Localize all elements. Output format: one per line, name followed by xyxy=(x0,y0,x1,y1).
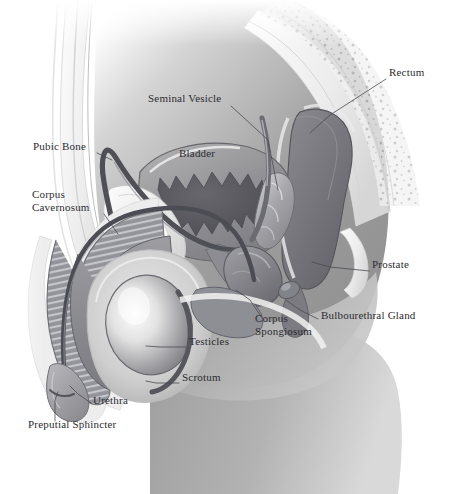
label-testicles[interactable]: Testicles xyxy=(189,335,229,348)
label-bulbourethral-gland[interactable]: Bulbourethral Gland xyxy=(321,309,416,322)
label-urethra[interactable]: Urethra xyxy=(93,394,128,407)
label-pubic-bone[interactable]: Pubic Bone xyxy=(33,140,86,153)
label-scrotum[interactable]: Scrotum xyxy=(182,371,221,384)
label-seminal-vesicle[interactable]: Seminal Vesicle xyxy=(148,92,221,105)
label-preputial-sphincter[interactable]: Preputial Sphincter xyxy=(28,418,116,431)
label-rectum[interactable]: Rectum xyxy=(389,66,424,79)
label-prostate[interactable]: Prostate xyxy=(372,258,409,271)
anatomy-figure: Rectum Seminal Vesicle Pubic Bone Bladde… xyxy=(0,0,456,494)
label-corpus-cavernosum[interactable]: Corpus Cavernosum xyxy=(32,188,90,214)
label-corpus-spongiosum[interactable]: Corpus Spongiosum xyxy=(255,312,312,338)
label-bladder[interactable]: Bladder xyxy=(179,147,215,160)
